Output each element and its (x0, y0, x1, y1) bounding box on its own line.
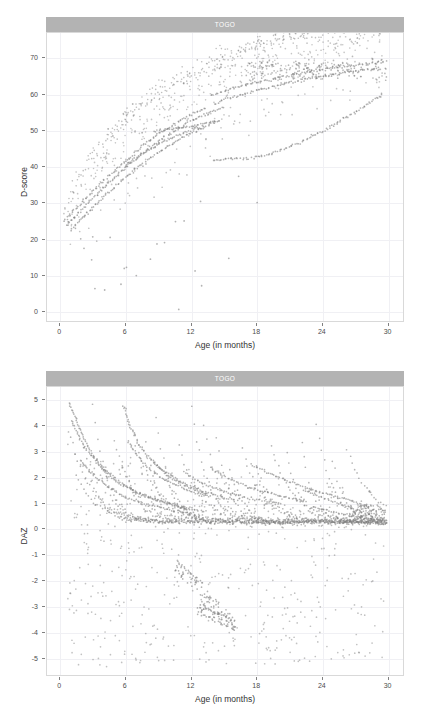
y-axis-tick-label: 0 (0, 308, 38, 315)
x-axis-tick-mark (388, 677, 389, 680)
plot-area-dscore (46, 32, 404, 322)
scatter-points-dscore (47, 33, 403, 321)
strip-label-daz: TOGO (215, 375, 236, 382)
y-axis-tick-mark (42, 503, 45, 504)
y-axis-tick-mark (42, 658, 45, 659)
y-axis-tick-label: 60 (0, 90, 38, 97)
y-axis-tick-label: 1 (0, 499, 38, 506)
scatter-points-daz (47, 387, 403, 675)
x-axis-tick-label: 18 (252, 328, 260, 335)
x-axis-tick-label: 0 (57, 328, 61, 335)
y-axis-tick-mark (42, 477, 45, 478)
y-axis-tick-label: 4 (0, 421, 38, 428)
strip-header-dscore: TOGO (46, 17, 404, 32)
panel-daz: TOGO -5-4-3-2-1012345 0612182430 DAZ Age… (0, 354, 422, 708)
x-axis-tick-mark (125, 323, 126, 326)
y-axis-tick-label: 10 (0, 271, 38, 278)
y-axis-tick-mark (42, 130, 45, 131)
x-axis-tick-label: 6 (123, 328, 127, 335)
y-axis-tick-mark (42, 528, 45, 529)
x-axis-title-daz: Age (in months) (46, 694, 404, 704)
y-axis-title-dscore: D-score (19, 152, 29, 212)
strip-label-dscore: TOGO (215, 21, 236, 28)
y-axis-tick-label: -5 (0, 654, 38, 661)
y-axis-title-daz: DAZ (19, 508, 29, 564)
x-axis-tick-label: 12 (187, 328, 195, 335)
y-axis-tick-mark (42, 311, 45, 312)
y-axis-tick-label: -4 (0, 628, 38, 635)
y-axis-tick-mark (42, 202, 45, 203)
x-axis-tick-label: 0 (57, 682, 61, 689)
y-axis-tick-mark (42, 632, 45, 633)
x-axis-tick-mark (59, 323, 60, 326)
x-axis-tick-mark (59, 677, 60, 680)
x-axis-tick-mark (322, 323, 323, 326)
y-axis-tick-mark (42, 94, 45, 95)
x-axis-tick-mark (125, 677, 126, 680)
x-axis-tick-mark (191, 323, 192, 326)
y-axis-tick-mark (42, 425, 45, 426)
y-axis-tick-mark (42, 166, 45, 167)
x-axis-tick-label: 12 (187, 682, 195, 689)
y-axis-tick-mark (42, 275, 45, 276)
y-axis-tick-mark (42, 239, 45, 240)
x-axis-tick-label: 30 (384, 328, 392, 335)
y-axis-tick-mark (42, 399, 45, 400)
y-axis-tick-label: -2 (0, 577, 38, 584)
x-axis-tick-mark (256, 323, 257, 326)
y-axis-tick-mark (42, 554, 45, 555)
y-axis-tick-label: 20 (0, 235, 38, 242)
y-axis-tick-label: -3 (0, 603, 38, 610)
y-axis-tick-label: 2 (0, 473, 38, 480)
x-axis-tick-mark (256, 677, 257, 680)
x-axis-tick-label: 18 (252, 682, 260, 689)
y-axis-tick-mark (42, 606, 45, 607)
x-axis-tick-label: 30 (384, 682, 392, 689)
plot-area-daz (46, 386, 404, 676)
x-axis-title-dscore: Age (in months) (46, 340, 404, 350)
x-axis-tick-mark (191, 677, 192, 680)
strip-header-daz: TOGO (46, 371, 404, 386)
y-axis-tick-label: 5 (0, 395, 38, 402)
y-axis-tick-label: 50 (0, 126, 38, 133)
figure-togo-dscore-daz: TOGO 010203040506070 0612182430 D-score … (0, 0, 422, 708)
y-axis-tick-label: 3 (0, 447, 38, 454)
x-axis-tick-label: 24 (318, 682, 326, 689)
y-axis-tick-mark (42, 580, 45, 581)
x-axis-tick-mark (388, 323, 389, 326)
x-axis-tick-mark (322, 677, 323, 680)
x-axis-tick-label: 24 (318, 328, 326, 335)
y-axis-tick-label: 70 (0, 54, 38, 61)
panel-dscore: TOGO 010203040506070 0612182430 D-score … (0, 0, 422, 354)
x-axis-tick-label: 6 (123, 682, 127, 689)
y-axis-tick-mark (42, 57, 45, 58)
y-axis-tick-mark (42, 451, 45, 452)
